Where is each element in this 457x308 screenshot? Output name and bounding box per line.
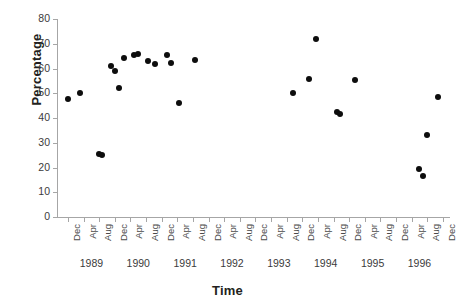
y-tick-mark [53,93,57,94]
y-tick-label: 40 [24,112,50,123]
x-tick-mark [193,218,194,222]
data-point [112,68,118,74]
data-point [306,76,312,82]
x-tick-mark [115,218,116,222]
y-axis-line [57,19,58,218]
data-point [192,57,198,63]
x-tick-mark [443,218,444,222]
y-tick-mark [53,19,57,20]
x-tick-mark [380,218,381,222]
y-tick-label: 0 [24,211,50,222]
x-axis-title: Time [0,283,455,298]
x-tick-mark [412,218,413,222]
data-point [416,166,422,172]
y-tick-mark [53,44,57,45]
x-tick-mark [287,218,288,222]
data-point [420,173,426,179]
data-point [77,90,83,96]
y-tick-label: 80 [24,13,50,24]
x-tick-mark [255,218,256,222]
x-tick-mark [84,218,85,222]
data-point [164,52,170,58]
x-tick-mark [365,218,366,222]
y-tick-label: 20 [24,162,50,173]
y-tick-mark [53,217,57,218]
data-point [424,132,430,138]
y-tick-mark [53,143,57,144]
data-point [131,52,137,58]
data-point [334,109,340,115]
data-point [290,90,296,96]
x-tick-mark [224,218,225,222]
x-tick-mark [177,218,178,222]
y-tick-mark [53,168,57,169]
x-tick-mark [130,218,131,222]
x-tick-mark [68,218,69,222]
data-point [96,151,102,157]
data-point [352,77,358,83]
data-point [135,51,141,57]
y-axis-tick-labels: 01020304050607080 [24,0,50,308]
y-tick-mark [53,69,57,70]
x-tick-mark [427,218,428,222]
x-tick-mark [396,218,397,222]
x-tick-mark [318,218,319,222]
data-point [176,100,182,106]
data-point [65,96,71,102]
data-point [99,152,105,158]
data-point [152,61,158,67]
y-tick-mark [53,192,57,193]
x-tick-mark [209,218,210,222]
data-point [121,55,127,61]
data-point [116,85,122,91]
y-tick-label: 70 [24,38,50,49]
x-axis-year-label: 1996 [389,258,449,269]
y-tick-label: 60 [24,63,50,74]
data-point [168,60,174,66]
y-tick-label: 10 [24,186,50,197]
x-tick-mark [240,218,241,222]
data-point [337,111,343,117]
x-tick-mark [302,218,303,222]
data-point [108,63,114,69]
data-point [145,58,151,64]
x-tick-mark [99,218,100,222]
x-tick-mark [162,218,163,222]
y-tick-label: 30 [24,137,50,148]
data-point [313,36,319,42]
x-tick-mark [271,218,272,222]
x-tick-mark [334,218,335,222]
y-tick-label: 50 [24,87,50,98]
x-tick-mark [146,218,147,222]
x-tick-mark [349,218,350,222]
y-tick-mark [53,118,57,119]
data-point [435,94,441,100]
